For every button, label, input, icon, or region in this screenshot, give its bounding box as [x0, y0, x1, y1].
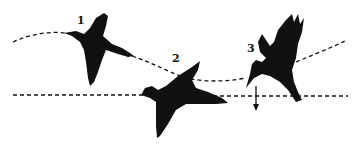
bird-silhouette-3 — [246, 14, 304, 102]
diagram: 1 2 3 — [0, 0, 361, 150]
down-arrow-icon — [253, 86, 259, 111]
stage-label-2: 2 — [172, 53, 180, 64]
bird-silhouette-2 — [141, 61, 228, 138]
stage-label-1: 1 — [77, 15, 85, 26]
diagram-canvas — [0, 0, 361, 150]
stage-label-3: 3 — [247, 43, 255, 54]
bird-silhouette-1 — [64, 13, 134, 86]
